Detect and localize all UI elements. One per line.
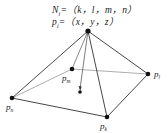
edge-apex-k bbox=[88, 31, 107, 117]
label-pk: pk bbox=[99, 121, 108, 132]
apex-point bbox=[85, 28, 90, 33]
inner-point bbox=[78, 90, 82, 94]
edge-apex-n bbox=[12, 31, 88, 98]
vertex-pm bbox=[70, 67, 75, 72]
label-pl: pl bbox=[153, 69, 161, 80]
pyramid-diagram: pm pl pn pk bbox=[0, 0, 168, 133]
label-pn: pn bbox=[5, 102, 14, 113]
vertex-pl bbox=[146, 72, 151, 77]
edge-n-k bbox=[12, 98, 107, 117]
vertex-pk bbox=[105, 115, 110, 120]
edge-apex-l bbox=[88, 31, 148, 74]
edge-m-l bbox=[72, 69, 148, 74]
vertex-pn bbox=[10, 96, 15, 101]
label-pm: pm bbox=[61, 73, 71, 84]
edge-k-l bbox=[107, 74, 148, 117]
